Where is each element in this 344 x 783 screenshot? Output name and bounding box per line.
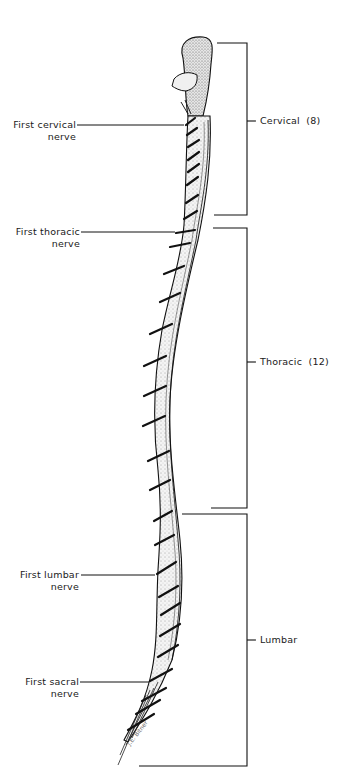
label-line: nerve [6,238,80,250]
bracket-cervical [214,43,247,215]
label-line: nerve [6,581,79,593]
label-first-thoracic-nerve: First thoracic nerve [6,226,80,250]
region-label-lumbar: Lumbar [260,634,297,646]
bracket-lumbar [139,514,247,766]
label-first-sacral-nerve: First sacral nerve [6,676,79,700]
label-line: First cervical [13,119,76,130]
label-first-lumbar-nerve: First lumbar nerve [6,569,79,593]
spinal-cord-diagram: J.E. Bitner First cervical nerve First t… [0,0,344,783]
label-line: nerve [6,131,76,143]
region-label-thoracic: Thoracic (12) [260,356,329,368]
label-line: First sacral [25,676,79,687]
label-first-cervical-nerve: First cervical nerve [6,119,76,143]
region-label-cervical: Cervical (8) [260,115,320,127]
bracket-thoracic [211,228,247,508]
spinal-cord [118,116,210,765]
label-line: First lumbar [20,569,79,580]
label-line: nerve [6,688,79,700]
label-line: First thoracic [16,226,80,237]
brainstem [172,37,212,116]
